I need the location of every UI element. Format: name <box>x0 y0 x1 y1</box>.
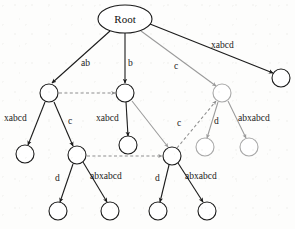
edge-label: d <box>214 116 219 126</box>
suffix-tree-graph: abbcxabcdxabcdcxabcdcdabxabcddabxabcddab… <box>0 0 295 229</box>
tree-edge <box>141 31 216 86</box>
tree-node[interactable] <box>101 202 119 220</box>
tree-edge <box>83 162 107 202</box>
tree-node[interactable] <box>16 145 34 163</box>
edge-label: d <box>155 173 160 183</box>
edge-label: d <box>55 173 60 183</box>
edge-label: ab <box>81 58 90 68</box>
tree-node[interactable] <box>196 138 214 156</box>
suffix-links-group <box>59 93 216 156</box>
tree-node[interactable] <box>240 138 258 156</box>
tree-edge <box>126 102 128 136</box>
edge-label: xabcd <box>211 40 234 50</box>
tree-node[interactable] <box>40 84 58 102</box>
edge-labels-group: abbcxabcdxabcdcxabcdcdabxabcddabxabcddab… <box>4 40 270 183</box>
edge-label: xabcd <box>96 113 119 123</box>
edge-label: abxabcd <box>90 171 122 181</box>
tree-node[interactable] <box>198 202 216 220</box>
tree-node[interactable] <box>49 202 67 220</box>
edge-label: abxabcd <box>238 113 270 123</box>
tree-edge <box>178 163 203 202</box>
edge-label: b <box>128 58 133 68</box>
edge-label: c <box>177 118 181 128</box>
tree-edges-group <box>28 24 273 202</box>
edge-label: abxabcd <box>185 171 217 181</box>
tree-edge <box>28 102 45 145</box>
edge-label: c <box>174 61 178 71</box>
edge-label: c <box>68 116 72 126</box>
root-node-label: Root <box>114 13 135 25</box>
tree-node[interactable] <box>116 84 134 102</box>
tree-edge <box>160 165 169 202</box>
tree-nodes-group <box>16 69 290 220</box>
diagram-canvas: abbcxabcdxabcdcxabcdcdabxabcddabxabcddab… <box>0 0 295 229</box>
tree-node[interactable] <box>119 136 137 154</box>
edge-label: xabcd <box>4 113 27 123</box>
tree-edge <box>60 164 73 202</box>
tree-edge <box>132 101 168 147</box>
tree-node[interactable] <box>213 84 231 102</box>
tree-node[interactable] <box>272 69 290 87</box>
tree-node[interactable] <box>68 146 86 164</box>
tree-node[interactable] <box>163 147 181 165</box>
root-node[interactable]: Root <box>98 5 152 33</box>
tree-edge <box>52 31 110 83</box>
tree-node[interactable] <box>149 202 167 220</box>
